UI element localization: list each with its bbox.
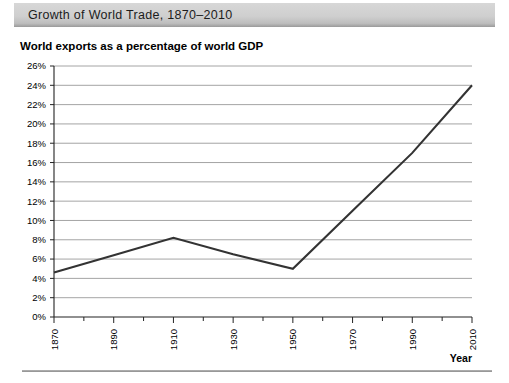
x-axis-tick-label: 1970 [347, 329, 358, 350]
y-axis-labels: 0%2%4%6%8%10%12%14%16%18%20%22%24%26% [27, 60, 47, 322]
y-axis-tick-label: 6% [32, 253, 46, 264]
x-axis-labels: 18701890191019301950197019902010 [49, 329, 478, 350]
y-axis-tick-label: 4% [32, 273, 46, 284]
y-axis-tick-label: 20% [27, 118, 47, 129]
y-axis-tick-label: 10% [27, 215, 47, 226]
x-axis-ticks [54, 317, 472, 323]
data-series-line [54, 85, 472, 272]
x-axis-tick-label: 1930 [228, 329, 239, 350]
y-axis-tick-label: 8% [32, 234, 46, 245]
y-axis-tick-label: 16% [27, 157, 47, 168]
y-axis-tick-label: 12% [27, 196, 47, 207]
line-chart: 0%2%4%6%8%10%12%14%16%18%20%22%24%26% 18… [0, 0, 509, 383]
x-axis-title: Year [450, 352, 472, 364]
y-axis-tick-label: 26% [27, 60, 47, 71]
y-axis-tick-label: 22% [27, 99, 47, 110]
y-axis-tick-label: 0% [32, 311, 46, 322]
y-axis-tick-label: 14% [27, 176, 47, 187]
x-axis-tick-label: 1890 [108, 329, 119, 350]
y-axis-tick-label: 18% [27, 138, 47, 149]
y-axis-ticks [50, 66, 54, 317]
x-axis-tick-label: 1870 [49, 329, 60, 350]
y-axis-tick-label: 2% [32, 292, 46, 303]
x-axis-tick-label: 1910 [168, 329, 179, 350]
gridlines [54, 66, 472, 298]
bottom-divider [22, 370, 492, 372]
chart-canvas: 0%2%4%6%8%10%12%14%16%18%20%22%24%26% 18… [0, 0, 509, 383]
x-axis-tick-label: 2010 [467, 329, 478, 350]
y-axis-tick-label: 24% [27, 80, 47, 91]
x-axis-tick-label: 1950 [287, 329, 298, 350]
x-axis-tick-label: 1990 [407, 329, 418, 350]
